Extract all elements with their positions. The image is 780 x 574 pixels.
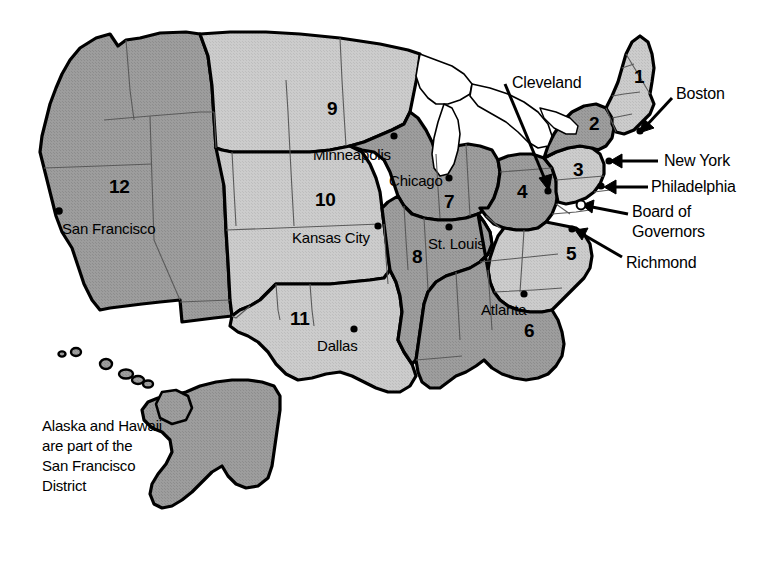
district-12-area (40, 32, 232, 322)
callout-label-richmond: Richmond (626, 254, 696, 273)
district-number-5: 5 (566, 243, 576, 265)
city-label-atlanta: Atlanta (481, 301, 526, 319)
district-number-7: 7 (444, 191, 454, 213)
dot-dallas (350, 325, 357, 332)
district-number-2: 2 (589, 113, 599, 135)
district-number-1: 1 (634, 66, 644, 88)
city-label-chicago: Chicago (389, 172, 443, 190)
city-label-kansas-city: Kansas City (292, 229, 370, 247)
district-number-6: 6 (524, 320, 534, 342)
dot-chicago (445, 174, 452, 181)
alaska-hawaii-note-line-4: District (42, 476, 86, 495)
dot-kansas-city (374, 222, 381, 229)
district-number-11: 11 (290, 308, 310, 330)
callout-label-cleveland: Cleveland (512, 74, 581, 93)
city-label-dallas: Dallas (317, 337, 357, 355)
callout-label-philadelphia: Philadelphia (651, 178, 736, 197)
callout-label-boston: Boston (676, 85, 725, 104)
city-label-san-francisco: San Francisco (62, 220, 155, 238)
map-graphic (0, 0, 780, 574)
dot-san-francisco (55, 207, 63, 215)
districts-layer (40, 32, 672, 508)
alaska-hawaii-note-line-2: are part of the (42, 436, 132, 455)
great-lakes-water (416, 54, 472, 104)
arrow-philadelphia-head (604, 180, 616, 194)
district-number-8: 8 (412, 246, 422, 268)
arrow-board-of-governors (592, 207, 628, 214)
callout-label-governors: Governors (632, 223, 705, 242)
callout-label-board-of: Board of (632, 203, 691, 222)
hawaii-islands (59, 348, 193, 424)
dot-cleveland (544, 187, 551, 194)
dot-minneapolis (390, 132, 397, 139)
district-number-10: 10 (315, 189, 336, 211)
district-5-area (488, 222, 592, 312)
alaska-hawaii-note-line-3: San Francisco (42, 456, 135, 475)
federal-reserve-districts-map: 1 2 3 4 5 6 7 8 9 10 11 12 Minneapolis C… (0, 0, 780, 574)
alaska-hawaii-note-line-1: Alaska and Hawaii (42, 416, 162, 435)
dot-philadelphia (597, 182, 604, 189)
dot-richmond (568, 225, 575, 232)
city-label-st-louis: St. Louis (428, 235, 485, 253)
district-number-12: 12 (109, 176, 130, 198)
dot-new-york (605, 157, 612, 164)
dot-board-of-governors (577, 201, 586, 210)
dot-st-louis (445, 223, 452, 230)
dot-boston (636, 127, 643, 134)
district-number-9: 9 (327, 98, 337, 120)
city-label-minneapolis: Minneapolis (313, 146, 391, 164)
district-number-3: 3 (573, 159, 583, 181)
callout-label-new-york: New York (664, 152, 730, 171)
district-1-area (606, 36, 654, 134)
lake-erie-water (470, 84, 552, 148)
district-number-4: 4 (517, 181, 527, 203)
dot-atlanta (520, 290, 527, 297)
